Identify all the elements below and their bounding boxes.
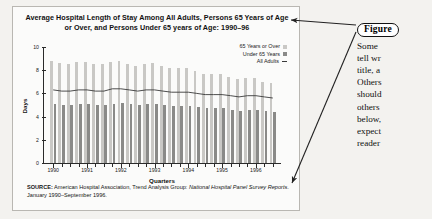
x-tick-quarter [264,164,265,167]
x-tick-quarter [231,164,232,167]
x-axis-year-label-1995: 1995 [216,167,228,173]
callout-badge-label: Figure [357,23,399,37]
x-tick-quarter [129,164,130,167]
callout-line-4: should [357,88,432,100]
y-tick-label-0: 0 [36,160,39,166]
callout-line-3: Others [357,76,432,88]
legend-label-65-or-over: 65 Years or Over [240,43,280,51]
legend-item-all-adults: All Adults [240,58,287,66]
y-tick-label-8: 8 [36,67,39,73]
source-publication-title: National Hospital Panel Survey Reports [189,184,287,190]
legend-item-65-or-over: 65 Years or Over [240,43,287,51]
page-background: Average Hospital Length of Stay Among Al… [0,0,432,219]
callout-line-5: others [357,101,432,113]
x-tick-quarter [79,164,80,167]
y-tick-label-4: 4 [36,114,39,120]
callout-line-8: reader [357,137,432,149]
x-tick-quarter [146,164,147,167]
legend-label-all-adults: All Adults [257,58,279,66]
x-tick-quarter [247,164,248,167]
figure-container: Average Hospital Length of Stay Among Al… [12,6,300,211]
x-tick-quarter [163,164,164,167]
chart-title: Average Hospital Length of Stay Among Al… [23,13,291,33]
x-tick-quarter [180,164,181,167]
x-tick-quarter [273,164,274,167]
callout-line-1: tell wr [357,52,432,64]
y-tick-label-10: 10 [33,44,39,50]
legend-swatch-icon-65-or-over [283,45,287,49]
source-prefix: SOURCE: [27,184,53,190]
y-tick-label-6: 6 [36,90,39,96]
x-tick-quarter [214,164,215,167]
x-axis-year-label-1996: 1996 [250,167,262,173]
legend-item-under-65: Under 65 Years [240,51,287,59]
chart-legend: 65 Years or Over Under 65 Years All Adul… [240,43,287,66]
callout-line-2: title, a [357,64,432,76]
x-axis-year-label-1991: 1991 [81,167,93,173]
legend-swatch-icon-under-65 [283,52,287,56]
x-tick-quarter [104,164,105,167]
y-tick-label-2: 2 [36,137,39,143]
callout-line-7: expect [357,125,432,137]
x-tick-quarter [205,164,206,167]
x-tick-quarter [197,164,198,167]
figure-callout: Figure Sometell wrtitle, aOthersshouldot… [357,18,432,149]
x-tick-quarter [70,164,71,167]
legend-line-icon-all-adults [282,61,287,62]
callout-line-6: below, [357,113,432,125]
arrow-to-source [292,32,356,183]
arrow-to-title [291,20,356,25]
x-axis-year-label-1992: 1992 [115,167,127,173]
legend-label-under-65: Under 65 Years [243,51,280,59]
x-tick-quarter [138,164,139,167]
x-axis-year-label-1990: 1990 [47,167,59,173]
x-tick-quarter [62,164,63,167]
x-axis-year-label-1994: 1994 [183,167,195,173]
source-text-1: American Hospital Association, Trend Ana… [54,184,187,190]
x-axis-year-label-1993: 1993 [149,167,161,173]
x-tick-quarter [171,164,172,167]
callout-line-0: Some [357,40,432,52]
source-note: SOURCE: American Hospital Association, T… [27,183,289,199]
x-tick-quarter [95,164,96,167]
x-tick-quarter [112,164,113,167]
y-axis-title: Days [21,98,28,113]
x-tick-quarter [239,164,240,167]
callout-body-text: Sometell wrtitle, aOthersshouldothersbel… [357,40,432,150]
